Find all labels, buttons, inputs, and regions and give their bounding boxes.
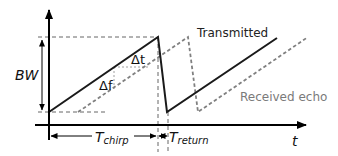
t-return-label: Treturn [169, 129, 209, 146]
time-axis-label: t [292, 133, 298, 149]
received-echo-label: Received echo [240, 90, 327, 104]
delta-guides [114, 67, 150, 90]
delta-t-label: Δt [131, 52, 145, 67]
delta-f-label: Δf [99, 78, 113, 93]
t-return-sub: return [178, 135, 209, 146]
t-chirp-sub: chirp [104, 135, 129, 146]
transmitted-label: Transmitted [196, 26, 268, 40]
bandwidth-label: BW [15, 67, 40, 83]
fmcw-chirp-diagram: BW Δt Δf Transmitted Received echo Tchir… [0, 0, 338, 156]
